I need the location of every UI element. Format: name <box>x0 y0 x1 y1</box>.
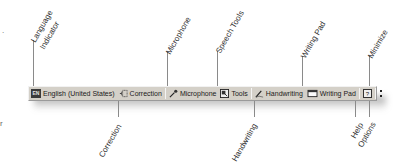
microphone-icon <box>169 89 178 98</box>
minimize-options-buttons[interactable] <box>377 87 385 100</box>
leader-options <box>369 101 370 117</box>
separator <box>251 88 252 99</box>
microphone-label: Microphone <box>180 90 217 97</box>
separator <box>359 88 360 99</box>
speech-tools-icon <box>220 89 229 98</box>
writing-pad-icon <box>307 89 318 98</box>
leader-minimize <box>369 56 370 86</box>
leader-language-indicator <box>33 40 34 86</box>
leader-correction <box>118 101 119 117</box>
minimize-icon[interactable] <box>380 90 382 92</box>
tools-label: Tools <box>231 90 247 97</box>
handwriting-button[interactable]: Handwriting <box>253 87 305 100</box>
correction-button[interactable]: Correction <box>117 87 164 100</box>
help-button[interactable]: ? <box>361 87 374 100</box>
correction-label: Correction <box>130 90 162 97</box>
stray-mark-bottom: r <box>0 119 3 128</box>
leader-help <box>355 101 356 117</box>
microphone-button[interactable]: Microphone <box>167 87 219 100</box>
handwriting-pen-icon <box>255 89 264 98</box>
leader-microphone <box>167 52 168 86</box>
language-label: English (United States) <box>43 90 115 97</box>
callout-microphone: Microphone <box>165 16 193 56</box>
leader-writing-pad <box>302 56 303 86</box>
callout-minimize: Minimize <box>367 29 390 60</box>
leader-handwriting <box>254 101 255 117</box>
callout-correction: Correction <box>98 123 123 159</box>
callout-handwriting: Handwriting <box>231 122 259 163</box>
language-bar: EN English (United States) Correction Mi… <box>28 86 377 101</box>
minimize-options-icon <box>378 88 384 99</box>
callout-speech-tools: Speech Tools <box>215 10 246 55</box>
stray-mark-top: . <box>2 26 4 35</box>
separator <box>165 88 166 99</box>
correction-icon <box>119 89 128 98</box>
speech-tools-button[interactable]: Tools <box>218 87 249 100</box>
options-icon[interactable] <box>380 95 382 97</box>
help-icon: ? <box>363 89 372 98</box>
language-code-icon: EN <box>31 89 41 98</box>
separator <box>375 88 376 99</box>
callout-writing-pad: Writing Pad <box>300 20 328 60</box>
writing-pad-button[interactable]: Writing Pad <box>305 87 358 100</box>
writing-pad-label: Writing Pad <box>320 90 356 97</box>
leader-speech-tools <box>217 51 218 86</box>
handwriting-label: Handwriting <box>266 90 303 97</box>
language-indicator[interactable]: EN English (United States) <box>29 87 117 100</box>
